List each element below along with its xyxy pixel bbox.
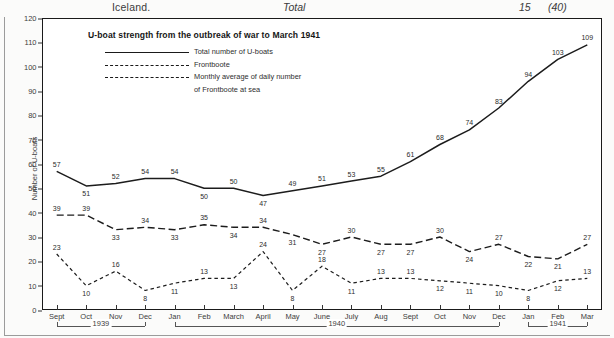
y-tick-40: 40: [14, 208, 42, 217]
data-label-s2-i16: 8: [526, 295, 530, 302]
x-axis-label-18: Mar: [581, 312, 594, 321]
y-tick-50: 50: [14, 184, 42, 193]
x-tick-1: [86, 305, 87, 310]
year-span-edge: [499, 322, 500, 326]
x-tick-13: [440, 305, 441, 310]
data-label-s0-i12: 61: [407, 151, 415, 158]
running-head-center: Total: [283, 1, 305, 13]
data-label-s2-i2: 16: [112, 260, 120, 267]
data-label-s1-i7: 34: [259, 216, 267, 223]
year-span-edge: [587, 322, 588, 326]
chart-plot-area: U-boat strength from the outbreak of war…: [42, 18, 602, 310]
year-label-1940: 1940: [326, 319, 347, 328]
y-tick-0: 0: [14, 306, 42, 315]
x-tick-3: [145, 305, 146, 310]
x-axis-label-14: Nov: [463, 312, 476, 321]
x-tick-10: [351, 305, 352, 310]
data-label-s0-i17: 103: [552, 48, 564, 55]
data-label-s1-i11: 27: [377, 248, 385, 255]
y-tick-110: 110: [14, 38, 42, 47]
chart-title: U-boat strength from the outbreak of war…: [88, 30, 320, 40]
x-axis-label-7: April: [256, 312, 271, 321]
data-label-s1-i6: 34: [230, 231, 238, 238]
data-label-s1-i18: 27: [583, 233, 591, 240]
legend-swatch-solid-line: [105, 52, 189, 53]
data-label-s2-i8: 8: [291, 295, 295, 302]
data-label-s2-i10: 11: [348, 287, 355, 294]
x-axis-label-15: Dec: [492, 312, 505, 321]
data-label-s0-i9: 51: [318, 175, 326, 182]
data-label-s0-i7: 47: [259, 200, 267, 207]
legend-label-frontboote: Frontboote: [194, 60, 230, 69]
x-tick-16: [528, 305, 529, 310]
data-label-s0-i11: 55: [377, 165, 385, 172]
x-axis-label-3: Dec: [138, 312, 151, 321]
data-label-s2-i11: 13: [377, 267, 385, 274]
data-label-s0-i4: 54: [171, 168, 179, 175]
x-axis-label-11: Aug: [374, 312, 387, 321]
data-label-s2-i15: 10: [495, 290, 503, 297]
x-tick-7: [263, 305, 264, 310]
data-label-s0-i10: 53: [348, 170, 356, 177]
running-head: Iceland. Total 15 (40): [0, 0, 614, 17]
data-label-s0-i8: 49: [289, 180, 297, 187]
data-label-s0-i1: 51: [82, 190, 90, 197]
y-tick-30: 30: [14, 233, 42, 242]
data-label-s2-i1: 10: [82, 290, 90, 297]
data-label-s1-i5: 35: [200, 214, 208, 221]
data-label-s1-i17: 21: [554, 263, 562, 270]
data-label-s1-i14: 24: [465, 256, 473, 263]
data-label-s2-i12: 13: [407, 267, 415, 274]
legend-swatch-short-dash-line: [105, 77, 189, 78]
y-tick-90: 90: [14, 87, 42, 96]
year-label-1941: 1941: [547, 319, 568, 328]
x-tick-5: [204, 305, 205, 310]
data-label-s2-i5: 13: [200, 267, 208, 274]
data-label-s1-i2: 33: [112, 234, 120, 241]
x-axis-label-6: March: [223, 312, 244, 321]
year-span-edge: [57, 322, 58, 326]
data-label-s2-i18: 13: [583, 267, 591, 274]
data-label-s1-i0: 39: [53, 204, 61, 211]
data-label-s2-i14: 11: [466, 287, 473, 294]
x-axis-label-13: Oct: [434, 312, 446, 321]
data-label-s1-i12: 27: [407, 248, 415, 255]
x-tick-6: [234, 305, 235, 310]
y-tick-10: 10: [14, 281, 42, 290]
running-head-left: Iceland.: [112, 1, 150, 13]
data-label-s2-i6: 13: [230, 282, 238, 289]
data-label-s0-i15: 83: [495, 97, 503, 104]
data-label-s0-i6: 50: [230, 177, 238, 184]
data-label-s2-i0: 23: [53, 243, 61, 250]
data-label-s2-i7: 24: [259, 241, 267, 248]
data-label-s2-i9: 18: [318, 255, 326, 262]
x-axis-label-4: Jan: [169, 312, 181, 321]
page-canvas: Iceland. Total 15 (40) Number of U-boats…: [0, 0, 614, 338]
x-axis: SeptOctNovDecJanFebMarchAprilMayJuneJuly…: [42, 310, 602, 338]
x-tick-18: [587, 305, 588, 310]
page-note: (40): [548, 1, 567, 13]
x-tick-12: [410, 305, 411, 310]
data-label-s1-i3: 34: [141, 216, 149, 223]
x-axis-label-16: Jan: [522, 312, 534, 321]
legend-swatch-long-dash-line: [105, 65, 189, 66]
data-label-s0-i14: 74: [465, 119, 473, 126]
data-label-s2-i3: 8: [143, 295, 147, 302]
data-label-s1-i16: 22: [524, 260, 532, 267]
year-span-edge: [145, 322, 146, 326]
page-number: 15: [519, 1, 531, 13]
data-label-s0-i16: 94: [524, 70, 532, 77]
x-tick-8: [293, 305, 294, 310]
data-label-s1-i8: 31: [289, 239, 297, 246]
x-tick-17: [558, 305, 559, 310]
legend-label-at-sea: Monthly average of daily number: [194, 72, 301, 81]
data-label-s1-i4: 33: [171, 234, 179, 241]
data-label-s1-i1: 39: [82, 204, 90, 211]
x-tick-2: [116, 305, 117, 310]
y-tick-100: 100: [14, 62, 42, 71]
data-label-s1-i15: 27: [495, 233, 503, 240]
x-tick-9: [322, 305, 323, 310]
y-axis: Number of U-boats 0102030405060708090100…: [14, 18, 42, 310]
year-span-edge: [175, 322, 176, 326]
x-tick-4: [175, 305, 176, 310]
